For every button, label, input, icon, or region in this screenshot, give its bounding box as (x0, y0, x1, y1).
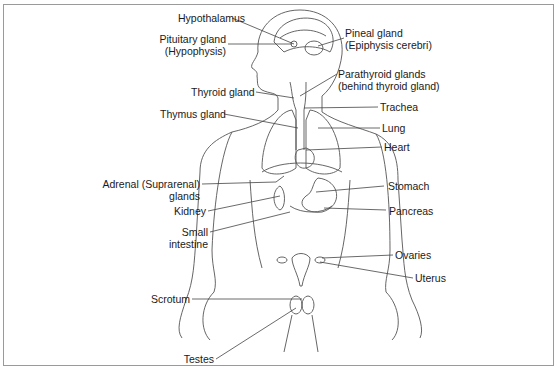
adrenal (276, 176, 284, 182)
label-pituitary-gland: Pituitary gland (146, 33, 226, 45)
kidney (274, 186, 285, 210)
right-testis (302, 296, 314, 314)
head-back (300, 10, 422, 338)
label-adrenal-glands-2: glands (96, 190, 200, 202)
label-pineal-alt: (Epiphysis cerebri) (345, 39, 432, 51)
label-trachea: Trachea (380, 101, 418, 113)
label-testes: Testes (154, 353, 214, 365)
label-pituitary-alt: (Hypophysis) (146, 45, 226, 57)
stomach (302, 178, 337, 212)
label-scrotum: Scrotum (130, 293, 190, 305)
right-arm (376, 134, 398, 340)
body-outline-illustration (0, 0, 560, 375)
label-thyroid-gland: Thyroid gland (191, 86, 255, 98)
label-parathyroid-glands: Parathyroid glands (338, 68, 426, 80)
label-lung: Lung (382, 122, 405, 134)
label-heart: Heart (384, 141, 410, 153)
label-hypothalamus: Hypothalamus (178, 12, 245, 24)
left-lung (262, 110, 296, 174)
label-uterus: Uterus (415, 272, 446, 284)
label-thymus-gland: Thymus gland (160, 108, 226, 120)
label-ovaries: Ovaries (395, 249, 431, 261)
left-ovary (277, 257, 287, 263)
uterus (292, 254, 310, 287)
label-adrenal-glands: Adrenal (Suprarenal) (96, 178, 200, 190)
label-parathyroid-note: (behind thyroid gland) (338, 80, 440, 92)
label-kidney: Kidney (146, 205, 206, 217)
label-pancreas: Pancreas (389, 205, 433, 217)
label-pineal-gland: Pineal gland (345, 27, 403, 39)
label-stomach: Stomach (388, 180, 429, 192)
heart (295, 148, 314, 168)
label-small-intestine-2: intestine (146, 238, 208, 250)
right-lung (306, 110, 340, 174)
label-small-intestine: Small (146, 226, 208, 238)
